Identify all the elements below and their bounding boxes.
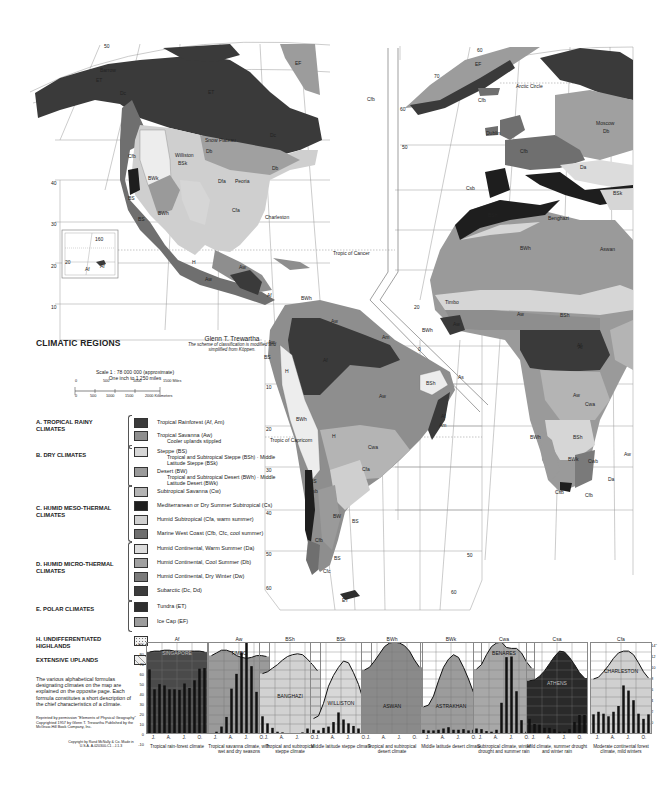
swatch xyxy=(134,515,148,525)
map-label: BSk xyxy=(613,190,622,196)
map-label: Timbo xyxy=(445,299,459,305)
climograph-plot: ASWAN xyxy=(361,642,423,734)
legend-item-humid-continental-cool: Humid Continental, Cool Summer (Db) xyxy=(134,558,251,570)
legend-item-tropical-savanna: Tropical Savanna (Aw)Cooler uplands stip… xyxy=(134,431,221,443)
svg-text:BENARES: BENARES xyxy=(492,650,517,656)
climograph-cfa: Cfa CHARLESTON J.A.J.O. Moderate contine… xyxy=(590,636,652,755)
map-label: Benghazi xyxy=(548,215,569,221)
legend-item-desert: Desert (BW)Tropical and Subtropical Dese… xyxy=(134,467,277,479)
map-label: 60 xyxy=(451,589,457,595)
map-label: Dfa xyxy=(218,178,226,184)
map-label: Db xyxy=(272,165,278,171)
map-label: EF xyxy=(295,60,301,66)
svg-text:ASWAN: ASWAN xyxy=(383,703,402,709)
map-label: Cfa xyxy=(362,466,370,472)
europe xyxy=(405,47,633,210)
south-america xyxy=(268,300,455,600)
map-label: Cfb xyxy=(478,97,486,103)
map-label: Aw xyxy=(573,392,580,398)
bracket xyxy=(128,542,132,602)
map-label: BS xyxy=(264,354,271,360)
map-label: Moscow xyxy=(596,120,614,126)
map-label: Aswan xyxy=(600,246,615,252)
map-label: BWh xyxy=(296,416,307,422)
map-label: 10 xyxy=(266,384,272,390)
legend-author-block: Glenn T. Trewartha The scheme of classif… xyxy=(186,335,278,352)
map-label: BWk xyxy=(568,456,579,462)
legend-group-humid-mesothermal: C. HUMID MESO-THERMAL CLIMATES xyxy=(36,505,116,518)
map-label: BWh xyxy=(301,295,312,301)
map-label: Cfb xyxy=(367,96,375,102)
map-label: BWh xyxy=(530,434,541,440)
climograph-caption: Tropical and subtropical desert climate xyxy=(361,744,423,755)
swatch xyxy=(134,447,148,457)
swatch xyxy=(134,617,148,627)
map-label: Da xyxy=(580,164,586,170)
legend-group-extensive-uplands: EXTENSIVE UPLANDS xyxy=(36,657,98,664)
map-label: 50 xyxy=(402,144,408,150)
map-label: Peoria xyxy=(235,178,249,184)
map-label: Db xyxy=(603,128,609,134)
map-label: Aw xyxy=(205,276,212,282)
map-label: Csb xyxy=(555,489,564,495)
bracket xyxy=(128,415,132,449)
map-label: BWh xyxy=(422,327,433,333)
map-label: BSh xyxy=(426,380,435,386)
map-label: BSk xyxy=(178,160,187,166)
map-label: Af xyxy=(100,263,105,269)
month-axis: J.A.J.O. xyxy=(590,735,652,740)
map-label: Aw xyxy=(517,311,524,317)
map-label: Dc xyxy=(120,90,126,96)
map-label: Cwa xyxy=(585,401,595,407)
map-label: 70 xyxy=(434,73,440,79)
map-label: As xyxy=(458,374,464,380)
map-label: Af xyxy=(323,357,328,363)
legend-item-mediterranean: Mediterranean or Dry Summer Subtropical … xyxy=(134,501,272,513)
swatch xyxy=(134,501,148,511)
legend-item-ice-cap: Ice Cap (EF) xyxy=(134,617,188,629)
map-label: ET xyxy=(342,597,348,603)
map-label: Csb xyxy=(309,488,318,494)
legend-group-tropical: A. TROPICAL RAINY CLIMATES xyxy=(36,419,116,432)
map-label: BSh xyxy=(560,312,569,318)
bracket xyxy=(128,600,132,632)
legend-group-dry: B. DRY CLIMATES xyxy=(36,452,86,459)
legend-item-humid-continental-warm: Humid Continental, Warm Summer (Da) xyxy=(134,544,254,556)
map-label: BW xyxy=(333,513,341,519)
svg-text:ASTRAKHAN: ASTRAKHAN xyxy=(436,703,467,709)
map-label: 50 xyxy=(266,551,272,557)
map-label: BS xyxy=(310,478,317,484)
map-label: Af xyxy=(85,266,90,272)
legend-item-marine-west-coast: Marine West Coast (Cfb, Cfc, cool summer… xyxy=(134,529,263,541)
map-label: Af xyxy=(441,413,446,419)
map-label: 30 xyxy=(51,221,57,227)
legend-item-subarctic: Subarctic (Dc, Dd) xyxy=(134,586,202,598)
map-label: 20 xyxy=(266,426,272,432)
map-label: Barrow xyxy=(100,67,116,73)
map-label: Tropic of Capricorn xyxy=(270,437,312,443)
map-label: 60 xyxy=(400,106,406,112)
legend-group-highlands: H. UNDIFFERENTIATED HIGHLANDS xyxy=(36,636,116,649)
map-label: Am xyxy=(439,422,447,428)
map-label: ET xyxy=(96,77,102,83)
map-label: Cwb xyxy=(588,458,598,464)
map-label: Cfb xyxy=(585,492,593,498)
map-label: Db xyxy=(206,148,212,154)
swatch xyxy=(134,529,148,539)
map-label: Da xyxy=(608,476,614,482)
map-label: Dublin xyxy=(486,130,500,136)
map-label: Dc xyxy=(270,132,276,138)
map-label: Tropic of Cancer xyxy=(333,250,370,256)
climograph-af: Af SINGAPORE J.A.J.O. Tropical rain-fore… xyxy=(146,636,208,749)
swatch xyxy=(134,487,148,497)
legend-author-note: The scheme of classification is modified… xyxy=(186,342,278,352)
map-label: BSh xyxy=(573,434,582,440)
map-label: 50 xyxy=(104,43,110,49)
map-label: Cfb xyxy=(520,148,528,154)
swatch xyxy=(134,418,148,428)
map-label: BWk xyxy=(148,175,159,181)
temperature-axis: 90°80706050403020100-10 xyxy=(130,640,144,750)
map-label: 20 xyxy=(51,263,57,269)
map-label: BS xyxy=(334,555,341,561)
svg-text:TIMBO: TIMBO xyxy=(231,650,247,656)
